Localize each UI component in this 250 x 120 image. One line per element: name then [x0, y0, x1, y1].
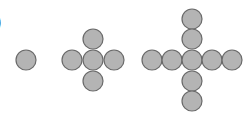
circle-dot: [182, 91, 202, 111]
circle-dot: [62, 50, 82, 70]
pattern-figures: [16, 9, 242, 111]
circle-dot: [83, 29, 103, 49]
circle-dot: [182, 50, 202, 70]
circle-dot: [182, 71, 202, 91]
circle-dot: [182, 9, 202, 29]
figure-stage-2: [62, 29, 124, 91]
circle-dot: [182, 29, 202, 49]
circle-dot: [162, 50, 182, 70]
circle-dot: [83, 71, 103, 91]
figure-stage-1: [16, 50, 36, 70]
figure-stage-3: [142, 9, 242, 111]
circle-dot: [142, 50, 162, 70]
circle-dot: [202, 50, 222, 70]
circle-dot: [83, 50, 103, 70]
circle-dot: [222, 50, 242, 70]
circle-dot: [104, 50, 124, 70]
circle-pattern-diagram: [0, 0, 250, 120]
circle-dot: [16, 50, 36, 70]
